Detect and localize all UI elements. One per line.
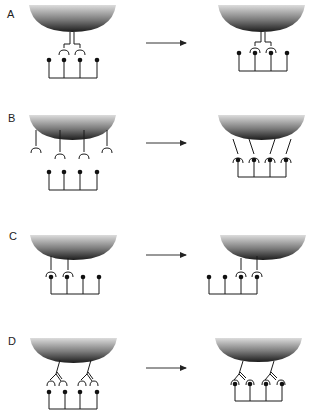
ligand-dot-icon (49, 275, 54, 280)
receptor-branch (50, 374, 56, 380)
panel-label-d: D (8, 335, 16, 347)
cell-surface (30, 235, 117, 260)
receptor-branch (265, 42, 271, 46)
receptor-branch (234, 374, 239, 380)
receptor-branch (56, 374, 61, 381)
receptor-stalk (233, 139, 238, 154)
panel-label-b: B (8, 112, 15, 124)
ligand-dot-icon (78, 170, 83, 175)
receptor-stalk (239, 361, 243, 374)
ligand-dot-icon (78, 390, 83, 395)
receptor-branch (81, 374, 87, 380)
ligand-dot-icon (252, 158, 257, 163)
receptor-socket-icon (78, 381, 86, 386)
receptor-stalk (270, 139, 275, 154)
receptor-socket-icon (59, 50, 69, 55)
ligand-dot-icon (248, 382, 253, 387)
ligand-dot-icon (268, 158, 273, 163)
receptor-branch (87, 374, 92, 381)
cell-surface (29, 115, 116, 140)
ligand-dot-icon (47, 170, 52, 175)
ligand-dot-icon (280, 382, 285, 387)
ligand-dot-icon (255, 275, 260, 280)
receptor-socket-icon (75, 50, 85, 55)
ligand-dot-icon (239, 275, 244, 280)
receptor-socket-icon (102, 148, 112, 153)
receptor-socket-icon (79, 154, 89, 159)
ligand-dot-icon (253, 51, 258, 56)
receptor-branch (265, 374, 270, 380)
ligand-dot-icon (284, 158, 289, 163)
panel-label-a: A (7, 8, 15, 20)
ligand-dot-icon (233, 382, 238, 387)
receptor-stalk (286, 139, 291, 154)
ligand-dot-icon (269, 51, 274, 56)
receptor-stalk (270, 361, 274, 374)
diagram: A B C D (0, 0, 314, 420)
cell-surface (218, 5, 305, 32)
ligand-dot-icon (207, 275, 212, 280)
ligand-dot-icon (95, 390, 100, 395)
receptor-branch (64, 44, 70, 48)
cell-surface (30, 338, 117, 363)
ligand-dot-icon (47, 390, 52, 395)
ligand-dot-icon (78, 58, 83, 63)
ligand-dot-icon (65, 275, 70, 280)
panel-label-c: C (9, 230, 17, 242)
ligand-dot-icon (63, 390, 68, 395)
receptor-socket-icon (47, 381, 55, 386)
cell-surface (218, 115, 305, 140)
ligand-dot-icon (264, 382, 269, 387)
cell-surface (215, 338, 302, 362)
receptor-branch (271, 372, 277, 378)
diagram-canvas: A B C D (0, 0, 314, 420)
receptor-branch (240, 372, 246, 378)
receptor-socket-icon (90, 381, 98, 386)
receptor-socket-icon (31, 148, 41, 153)
ligand-dot-icon (223, 275, 228, 280)
receptor-stalk (56, 360, 60, 374)
receptor-socket-icon (59, 381, 67, 386)
ligand-dot-icon (47, 58, 52, 63)
receptor-branch (255, 42, 261, 46)
receptor-branch (57, 372, 62, 379)
ligand-dot-icon (95, 170, 100, 175)
receptor-branch (88, 372, 93, 379)
receptor-stalk (249, 139, 254, 154)
cell-surface (220, 235, 306, 260)
ligand-dot-icon (285, 51, 290, 56)
receptor-socket-icon (55, 154, 65, 159)
receptor-branch (239, 374, 245, 380)
ligand-dot-icon (62, 58, 67, 63)
ligand-dot-icon (97, 275, 102, 280)
ligand-dot-icon (236, 158, 241, 163)
ligand-dot-icon (237, 51, 242, 56)
receptor-branch (270, 374, 276, 380)
receptor-stalk (87, 360, 91, 374)
receptor-branch (74, 44, 80, 48)
cell-surface (29, 5, 116, 32)
ligand-dot-icon (62, 170, 67, 175)
ligand-dot-icon (81, 275, 86, 280)
ligand-dot-icon (95, 58, 100, 63)
